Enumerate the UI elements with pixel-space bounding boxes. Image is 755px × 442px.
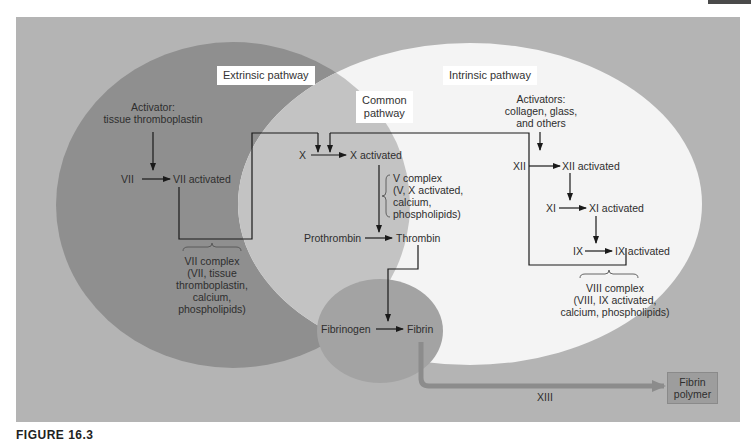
activator-heading: Activator:: [98, 101, 208, 113]
viii-complex-line: (VIII, IX activated,: [550, 294, 680, 306]
v-complex: V complex (V, X activated, calcium, phos…: [393, 172, 463, 220]
intrinsic-pathway-label: Intrinsic pathway: [443, 66, 537, 85]
factor-x-activated: X activated: [350, 149, 402, 161]
viii-complex-line: calcium, phospholipids): [550, 306, 680, 318]
viii-complex: VIII complex (VIII, IX activated, calciu…: [550, 282, 680, 318]
factor-x: X: [299, 149, 306, 161]
fibrin: Fibrin: [407, 323, 433, 335]
fibrin-polymer-line1: Fibrin: [668, 376, 717, 388]
viii-complex-line: VIII complex: [550, 282, 680, 294]
activators-line: Activators:: [495, 93, 587, 105]
factor-xii: XII: [513, 160, 526, 172]
factor-xiii: XIII: [530, 391, 560, 403]
common-label-line1: Common: [362, 94, 407, 107]
v-complex-line: V complex: [393, 172, 463, 184]
factor-vii: VII: [121, 173, 134, 185]
factor-ix-activated: IX activated: [615, 245, 670, 257]
factor-xi-activated: XI activated: [589, 202, 644, 214]
intrinsic-activators: Activators: collagen, glass, and others: [495, 93, 587, 129]
common-pathway-label: Common pathway: [356, 91, 413, 123]
factor-xi: XI: [546, 202, 556, 214]
figure-caption: FIGURE 16.3: [16, 428, 94, 442]
activators-line: collagen, glass,: [495, 105, 587, 117]
fibrin-polymer-box: Fibrin polymer: [667, 372, 718, 404]
fibrin-polymer-line2: polymer: [668, 388, 717, 400]
v-complex-line: phospholipids): [393, 208, 463, 220]
v-complex-line: (V, X activated,: [393, 184, 463, 196]
vii-complex-line: (VII, tissue: [167, 267, 257, 279]
activator-tissue-thromboplastin: tissue thromboplastin: [98, 113, 208, 125]
factor-ix: IX: [573, 245, 583, 257]
prothrombin: Prothrombin: [304, 232, 361, 244]
v-complex-line: calcium,: [393, 196, 463, 208]
vii-complex-line: thromboplastin,: [167, 279, 257, 291]
fibrinogen: Fibrinogen: [321, 323, 371, 335]
vii-complex-line: VII complex: [167, 255, 257, 267]
extrinsic-pathway-label: Extrinsic pathway: [217, 66, 315, 85]
factor-vii-activated: VII activated: [173, 173, 231, 185]
thrombin: Thrombin: [396, 232, 440, 244]
vii-complex: VII complex (VII, tissue thromboplastin,…: [167, 255, 257, 315]
vii-complex-line: phospholipids): [167, 303, 257, 315]
common-label-line2: pathway: [362, 107, 407, 120]
activators-line: and others: [495, 117, 587, 129]
factor-xii-activated: XII activated: [562, 160, 620, 172]
vii-complex-line: calcium,: [167, 291, 257, 303]
extrinsic-activator: Activator: tissue thromboplastin: [98, 101, 208, 125]
